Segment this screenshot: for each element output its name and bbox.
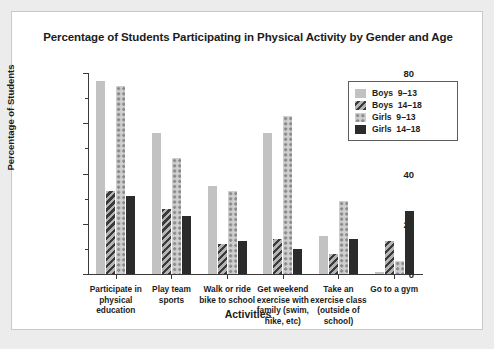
legend-swatch-boys1418 xyxy=(355,101,366,110)
x-axis-tick xyxy=(338,274,339,279)
legend-label: Boys 9–13 xyxy=(372,88,417,98)
x-axis-line xyxy=(88,274,423,275)
x-axis-tick xyxy=(394,274,395,279)
bar-girls913[interactable] xyxy=(172,158,181,274)
bar-boys1418[interactable] xyxy=(385,241,394,274)
x-axis-tick xyxy=(171,274,172,279)
bar-girls1418[interactable] xyxy=(238,241,247,274)
bar-girls913[interactable] xyxy=(116,86,125,274)
bar-group: Play team sports xyxy=(144,73,200,274)
legend-item[interactable]: Girls 14–18 xyxy=(355,123,451,135)
bar-group-bars xyxy=(88,73,144,274)
bar-boys1418[interactable] xyxy=(106,191,115,274)
bar-boys1418[interactable] xyxy=(218,244,227,274)
legend-item[interactable]: Girls 9–13 xyxy=(355,111,451,123)
bar-group-bars xyxy=(255,73,311,274)
legend-item[interactable]: Boys 14–18 xyxy=(355,99,451,111)
bar-girls1418[interactable] xyxy=(182,216,191,274)
bar-boys913[interactable] xyxy=(263,133,272,274)
legend-swatch-girls1418 xyxy=(355,125,366,134)
bar-group: Get weekend exercise with family (swim, … xyxy=(255,73,311,274)
y-axis-title: Percentage of Students xyxy=(5,64,16,170)
bar-group: Walk or ride bike to school xyxy=(199,73,255,274)
bar-group-bars xyxy=(199,73,255,274)
bar-boys1418[interactable] xyxy=(162,209,171,274)
bar-girls913[interactable] xyxy=(283,116,292,274)
bar-girls913[interactable] xyxy=(395,261,404,274)
legend-label: Boys 14–18 xyxy=(372,100,422,110)
x-axis-tick xyxy=(116,274,117,279)
bar-boys913[interactable] xyxy=(319,236,328,274)
x-axis-tick xyxy=(283,274,284,279)
chart-legend: Boys 9–13Boys 14–18Girls 9–13Girls 14–18 xyxy=(348,81,458,141)
bar-boys913[interactable] xyxy=(96,81,105,274)
bar-boys1418[interactable] xyxy=(273,239,282,274)
legend-label: Girls 9–13 xyxy=(372,112,415,122)
bar-girls1418[interactable] xyxy=(349,239,358,274)
bar-girls1418[interactable] xyxy=(126,196,135,274)
bar-boys913[interactable] xyxy=(208,186,217,274)
chart-title: Percentage of Students Participating in … xyxy=(12,31,484,43)
bar-girls913[interactable] xyxy=(228,191,237,274)
legend-swatch-girls913 xyxy=(355,113,366,122)
y-axis-tick xyxy=(83,274,88,275)
legend-item[interactable]: Boys 9–13 xyxy=(355,87,451,99)
bar-group-bars xyxy=(144,73,200,274)
bar-boys1418[interactable] xyxy=(329,254,338,274)
bar-group: Participate in physical education xyxy=(88,73,144,274)
bar-boys913[interactable] xyxy=(375,272,384,275)
legend-label: Girls 14–18 xyxy=(372,124,420,134)
x-axis-tick xyxy=(227,274,228,279)
bar-girls1418[interactable] xyxy=(405,211,414,274)
chart-card: Percentage of Students Participating in … xyxy=(11,11,483,330)
bar-boys913[interactable] xyxy=(152,133,161,274)
bar-girls913[interactable] xyxy=(339,201,348,274)
bar-girls1418[interactable] xyxy=(293,249,302,274)
x-axis-category-label: Go to a gym xyxy=(355,284,433,295)
legend-swatch-boys913 xyxy=(355,89,366,98)
